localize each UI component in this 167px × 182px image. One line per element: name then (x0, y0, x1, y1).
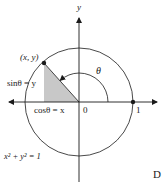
cos-label: cosθ = x (34, 105, 65, 115)
sin-label: sinθ = y (7, 78, 36, 88)
point-one (131, 100, 135, 104)
equation-label: x² + y² = 1 (3, 151, 41, 161)
point-label: (x, y) (20, 52, 38, 62)
point-xy (42, 61, 46, 65)
unit-label: 1 (136, 105, 141, 115)
origin-label: 0 (83, 105, 88, 115)
unit-circle-diagram: y (x, y) θ sinθ = y cosθ = x 0 1 x² + y²… (0, 0, 167, 182)
corner-label: D (153, 168, 161, 180)
angle-label: θ (96, 65, 101, 76)
y-axis-label: y (76, 2, 81, 12)
